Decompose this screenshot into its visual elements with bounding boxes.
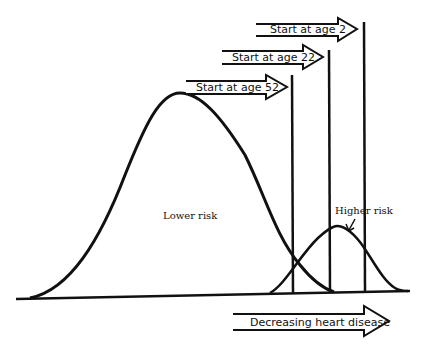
label-lower-risk: Lower risk — [163, 210, 218, 221]
label-start-age-22: Start at age 22 — [232, 51, 315, 64]
baseline-axis — [16, 291, 410, 299]
label-start-age-52: Start at age 52 — [196, 81, 279, 94]
lower-risk-curve — [30, 93, 334, 298]
higher-risk-curve — [270, 226, 408, 293]
label-higher-risk: Higher risk — [335, 205, 394, 216]
risk-diagram: Start at age 2 Start at age 22 Start at … — [0, 0, 424, 351]
start-line-age-52 — [292, 75, 293, 294]
start-line-age-2 — [364, 22, 365, 292]
label-start-age-2: Start at age 2 — [270, 23, 346, 36]
label-decreasing-heart-disease: Decreasing heart disease — [250, 316, 390, 329]
start-line-age-22 — [329, 50, 330, 293]
